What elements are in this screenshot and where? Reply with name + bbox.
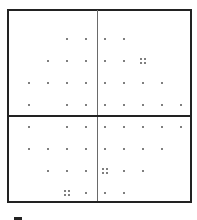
board-dot [104,82,106,84]
horizontal-divider [8,115,190,117]
board-dot [142,82,144,84]
board-dot [142,126,144,128]
board-dot [47,148,49,150]
board-dot [104,104,106,106]
board-dot [66,60,68,62]
board-dot [28,126,30,128]
board-dot [142,170,144,172]
board-dot [104,60,106,62]
partial-glyph-icon [14,217,22,220]
board-dot [66,82,68,84]
board-dot [123,38,125,40]
board-dot [180,126,182,128]
board-dot [85,170,87,172]
board-dot [123,170,125,172]
cluster-dot [140,58,142,60]
board-dot [66,148,68,150]
board-dot [123,148,125,150]
board-dot [180,104,182,106]
board-dot [104,126,106,128]
board-dot [47,170,49,172]
board-dot [85,192,87,194]
board-dot [47,60,49,62]
board-dot [28,148,30,150]
board-dot [123,126,125,128]
dot-cluster [63,189,71,197]
board-dot [85,60,87,62]
board-dot [123,82,125,84]
board-dot [85,82,87,84]
cluster-dot [144,62,146,64]
board-dot [123,104,125,106]
board-dot [85,148,87,150]
board-dot [104,148,106,150]
board-dot [47,82,49,84]
board-frame [7,9,192,203]
board-dot [104,192,106,194]
cluster-dot [102,168,104,170]
board-dot [66,170,68,172]
puzzle-board [0,0,197,220]
board-dot [85,104,87,106]
cluster-dot [64,190,66,192]
board-dot [161,104,163,106]
cluster-dot [64,194,66,196]
cluster-dot [68,194,70,196]
cluster-dot [140,62,142,64]
vertical-divider [97,10,98,201]
board-dot [123,60,125,62]
cluster-dot [68,190,70,192]
board-dot [161,148,163,150]
dot-cluster [139,57,147,65]
cluster-dot [102,172,104,174]
board-dot [28,104,30,106]
board-dot [85,38,87,40]
board-dot [104,38,106,40]
board-dot [123,192,125,194]
board-dot [28,82,30,84]
board-dot [66,38,68,40]
board-dot [85,126,87,128]
dot-cluster [101,167,109,175]
board-dot [66,126,68,128]
board-dot [142,104,144,106]
cluster-dot [106,172,108,174]
board-dot [66,104,68,106]
board-dot [142,148,144,150]
board-dot [161,82,163,84]
cluster-dot [106,168,108,170]
board-dot [161,126,163,128]
cluster-dot [144,58,146,60]
